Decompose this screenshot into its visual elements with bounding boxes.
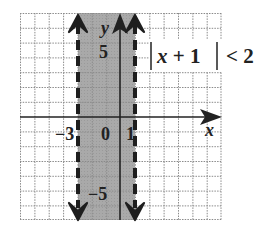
tick-label-origin: 0 (101, 124, 110, 144)
tick-label-y-neg5: −5 (88, 184, 107, 204)
inequality-relation: < 2 (226, 44, 254, 68)
inequality-expression: x + 1 (156, 44, 200, 68)
tick-label-y-5: 5 (99, 42, 108, 62)
tick-label-x-1: 1 (126, 124, 135, 144)
inequality-graph: −3 0 1 5 −5 y x x + 1 < 2 (0, 0, 271, 232)
inequality-plus-one: + 1 (168, 44, 201, 68)
axis-label-x: x (204, 120, 214, 140)
tick-label-x-neg3: −3 (55, 124, 74, 144)
inequality-var: x (156, 44, 168, 68)
axis-label-y: y (99, 18, 110, 38)
